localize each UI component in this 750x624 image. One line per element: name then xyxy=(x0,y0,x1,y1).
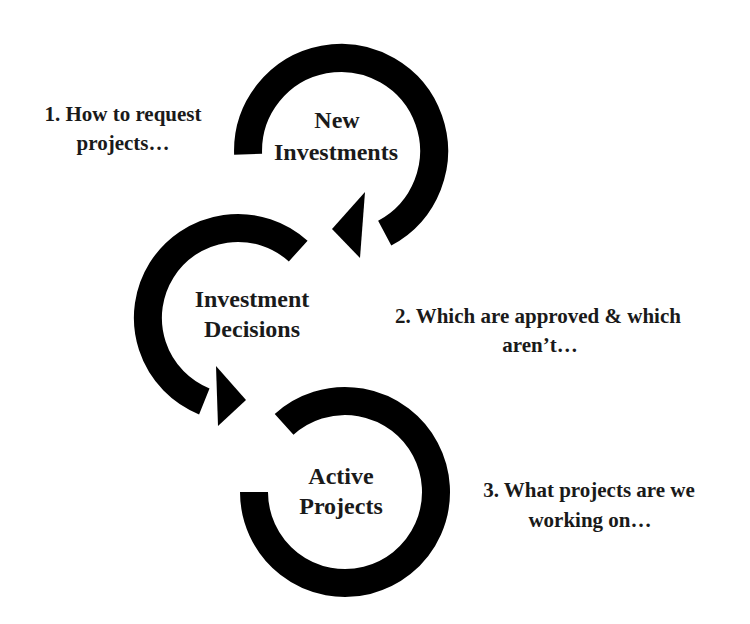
stage-note-line: 1. How to request xyxy=(44,102,201,126)
stage-note-line: 2. Which are approved & which xyxy=(395,304,681,328)
stage-title-line: Investments xyxy=(274,139,398,165)
stage-title-line: New xyxy=(314,107,360,133)
stage-title-line: Investment xyxy=(195,286,310,312)
stage-title-line: Active xyxy=(308,463,374,489)
stage-note-line: working on… xyxy=(528,508,651,532)
arrowhead-icon xyxy=(216,366,246,426)
stage-title-line: Decisions xyxy=(204,316,300,342)
stage-note-line: aren’t… xyxy=(502,333,577,357)
stage-active-projects: Active Projects 3. What projects are we … xyxy=(254,401,695,583)
process-cycle-diagram: New Investments 1. How to request projec… xyxy=(0,0,750,624)
stage-investment-decisions: Investment Decisions 2. Which are approv… xyxy=(148,228,681,426)
stage-note-line: 3. What projects are we xyxy=(483,478,695,502)
stage-note-line: projects… xyxy=(77,131,170,155)
arrowhead-icon xyxy=(332,192,365,258)
stage-title-line: Projects xyxy=(299,493,383,519)
